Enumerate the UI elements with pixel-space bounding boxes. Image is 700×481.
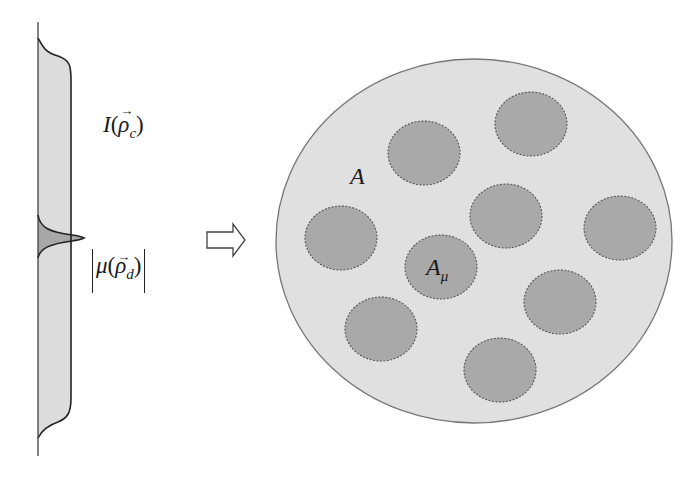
- rho-vector: →ρ: [118, 112, 129, 138]
- close-paren: ): [136, 112, 144, 137]
- speckle-disc: [276, 59, 672, 423]
- speckle-spot: [584, 196, 656, 260]
- speckle-spot: [524, 270, 596, 334]
- right-arrow-icon: [207, 224, 245, 256]
- mu-symbol: μ: [96, 253, 108, 278]
- speckle-spot: [345, 297, 417, 361]
- intensity-symbol: I: [103, 112, 111, 137]
- area-symbol: A: [426, 254, 441, 280]
- vector-arrow-icon: →: [117, 240, 130, 273]
- coherence-area-label: Aμ: [426, 254, 448, 285]
- vector-arrow-icon: →: [120, 103, 133, 119]
- speckle-spot: [470, 184, 542, 248]
- speckle-spot: [495, 92, 567, 156]
- speckle-spot: [464, 338, 536, 402]
- diagram-canvas: [0, 0, 700, 481]
- intensity-label: I(→ρc): [103, 112, 144, 142]
- subscript-mu: μ: [441, 268, 449, 284]
- close-paren: ): [134, 253, 142, 278]
- coherence-label: μ(→ρd): [92, 249, 145, 293]
- speckle-spot: [305, 206, 377, 270]
- intensity-profile: [38, 22, 84, 456]
- speckle-spot: [388, 121, 460, 185]
- rho-vector: →ρ: [115, 249, 126, 282]
- area-label: A: [350, 163, 365, 190]
